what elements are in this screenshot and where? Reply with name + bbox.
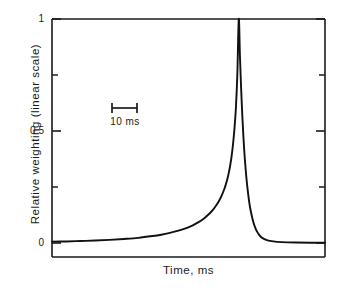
chart-plot-area — [0, 0, 337, 290]
y-axis-title: Relative weighting (linear scale) — [29, 14, 41, 254]
scale-bar-label: 10 ms — [92, 116, 158, 127]
x-axis-title: Time, ms — [52, 264, 325, 276]
figure: 1 0.5 0 Relative weighting (linear scale… — [0, 0, 337, 290]
plot-background — [52, 19, 325, 257]
